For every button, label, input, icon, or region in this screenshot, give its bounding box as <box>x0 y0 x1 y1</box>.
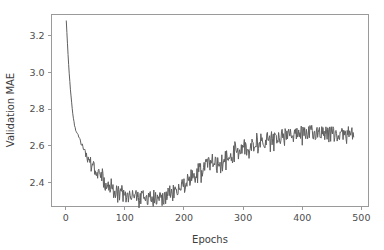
y-tick-label: 2.6 <box>29 140 44 151</box>
validation-mae-line-chart: 0100200300400500 2.42.62.83.03.2 Epochs … <box>0 0 384 250</box>
y-tick-label: 3.0 <box>29 67 44 78</box>
y-tick-label: 3.2 <box>29 30 44 41</box>
x-axis-title: Epochs <box>192 234 228 245</box>
x-tick-label: 200 <box>175 212 193 223</box>
x-tick-label: 500 <box>352 212 370 223</box>
y-tick-label: 2.8 <box>29 103 44 114</box>
x-tick-label: 100 <box>116 212 134 223</box>
y-axis-title: Validation MAE <box>5 73 16 147</box>
x-tick-label: 300 <box>234 212 252 223</box>
x-tick-label: 0 <box>63 212 69 223</box>
x-tick-label: 400 <box>293 212 311 223</box>
figure-canvas: 0100200300400500 2.42.62.83.03.2 Epochs … <box>0 0 384 250</box>
y-tick-label: 2.4 <box>29 177 44 188</box>
